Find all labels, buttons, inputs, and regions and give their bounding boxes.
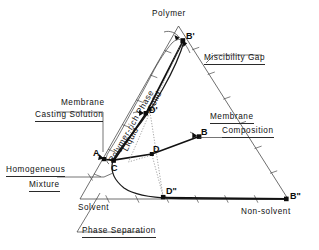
annotation-miscibility-gap: Miscibility Gap — [204, 53, 265, 65]
corner-label-solvent: Solvent — [78, 203, 109, 214]
annotation-membrane-casting-solution-line1: Membrane — [61, 98, 105, 109]
point-label-B-double-prime: B" — [290, 192, 301, 201]
axis-ticks-right-edge — [192, 47, 277, 173]
annotation-membrane-composition-line1: Membrane — [210, 112, 254, 124]
point-label-D-prime: D' — [149, 106, 158, 115]
point-label-D-double-prime: D" — [166, 187, 177, 196]
triangle-outline — [80, 26, 288, 199]
point-label-B-prime: B' — [186, 32, 195, 41]
point-label-A: A — [93, 149, 100, 158]
ternary-phase-diagram-figure: Polymer Solvent Non-solvent Membrane Cas… — [0, 0, 319, 250]
point-label-C: C — [111, 164, 118, 173]
leader-homogeneous-mixture — [57, 173, 113, 181]
corner-label-non-solvent: Non-solvent — [241, 207, 291, 218]
annotation-phase-separation: Phase Separation — [82, 226, 156, 238]
point-label-B: B — [201, 128, 208, 137]
point-label-D: D — [153, 145, 160, 154]
annotation-membrane-casting-solution-line2: Casting Solution — [35, 110, 103, 122]
annotation-homogeneous-line2: Mixture — [29, 180, 60, 192]
annotation-homogeneous-line1: Homogeneous — [6, 165, 65, 177]
corner-label-polymer: Polymer — [152, 9, 186, 20]
annotation-membrane-composition-line2: Composition — [222, 126, 274, 138]
